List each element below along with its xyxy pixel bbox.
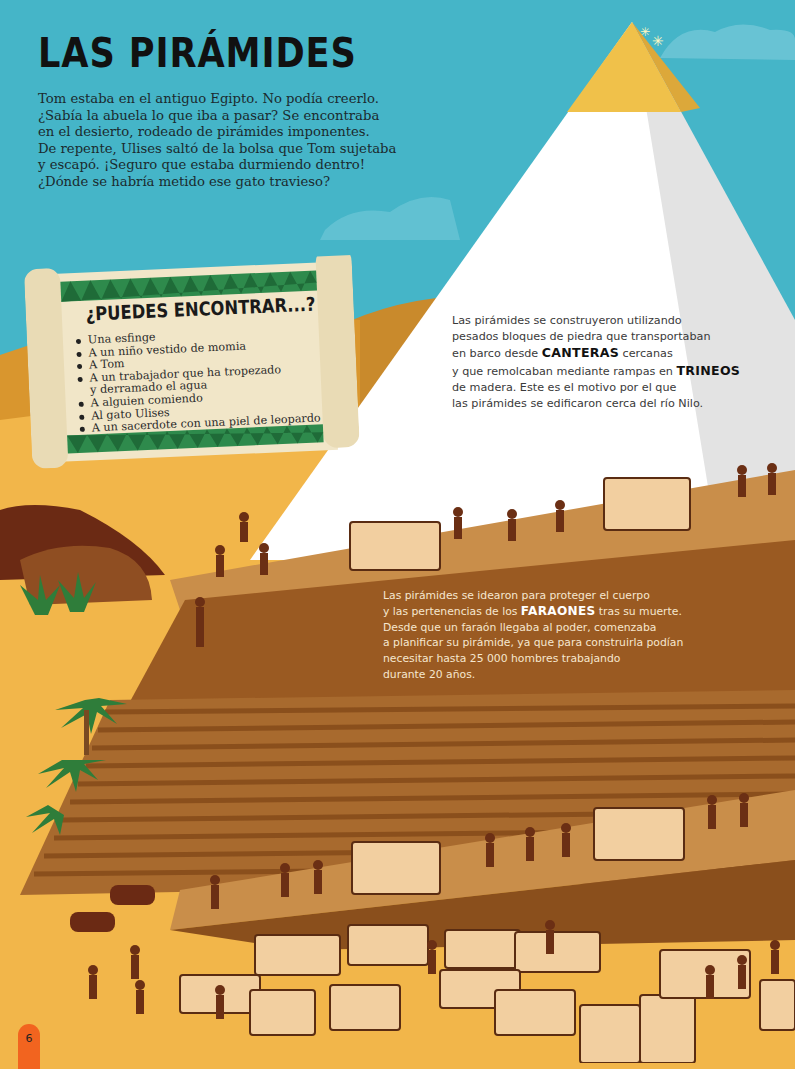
info-line: en barco desde CANTERAS cercanas <box>452 345 772 362</box>
find-scroll: ¿PUEDES ENCONTRAR...? Una esfinge A un n… <box>24 255 360 469</box>
info-text: y las pertenencias de los <box>383 605 521 618</box>
intro-paragraph: Tom estaba en el antiguo Egipto. No podí… <box>38 91 418 191</box>
info-line: de madera. Este es el motivo por el que <box>452 380 772 396</box>
info-line: y las pertenencias de los FARAONES tras … <box>383 604 743 620</box>
intro-line: en el desierto, rodeado de pirámides imp… <box>38 124 418 141</box>
page-number: 6 <box>18 1024 40 1069</box>
intro-line: ¿Dónde se habría metido ese gato travies… <box>38 174 418 191</box>
intro-line: De repente, Ulises saltó de la bolsa que… <box>38 141 418 158</box>
intro-line: Tom estaba en el antiguo Egipto. No podí… <box>38 91 418 108</box>
construction-info: Las pirámides se construyeron utilizando… <box>452 313 772 412</box>
info-line: Las pirámides se idearon para proteger e… <box>383 588 743 604</box>
info-text: cercanas <box>619 347 673 360</box>
info-line: Las pirámides se construyeron utilizando <box>452 313 772 329</box>
page-title: LAS PIRÁMIDES <box>38 30 357 76</box>
keyword-canteras: CANTERAS <box>542 345 619 360</box>
intro-line: ¿Sabía la abuela lo que iba a pasar? Se … <box>38 108 418 125</box>
info-line: a planificar su pirámide, ya que para co… <box>383 635 743 651</box>
info-text: y que remolcaban mediante rampas en <box>452 365 677 378</box>
info-line: durante 20 años. <box>383 667 743 683</box>
info-line: y que remolcaban mediante rampas en TRIN… <box>452 363 772 380</box>
keyword-faraones: FARAONES <box>521 604 596 618</box>
keyword-trineos: TRINEOS <box>677 363 741 378</box>
info-line: Desde que un faraón llegaba al poder, co… <box>383 620 743 636</box>
svg-text:✳: ✳ <box>652 33 664 49</box>
info-text: tras su muerte. <box>595 605 681 618</box>
info-line: las pirámides se edificaron cerca del rí… <box>452 396 772 412</box>
info-text: en barco desde <box>452 347 542 360</box>
find-list: Una esfinge A un niño vestido de momia A… <box>75 325 321 436</box>
svg-text:✳: ✳ <box>640 25 650 39</box>
info-line: pesados bloques de piedra que transporta… <box>452 329 772 345</box>
pharaohs-info: Las pirámides se idearon para proteger e… <box>383 588 743 683</box>
intro-line: y escapó. ¡Seguro que estaba durmiendo d… <box>38 157 418 174</box>
info-line: necesitar hasta 25 000 hombres trabajand… <box>383 651 743 667</box>
